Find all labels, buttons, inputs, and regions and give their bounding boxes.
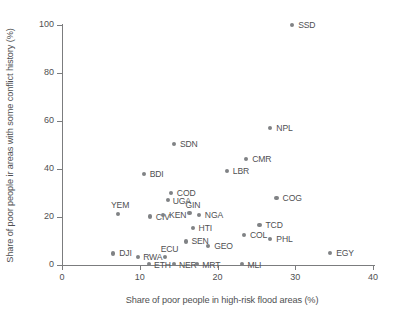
x-tick-mark — [295, 266, 296, 270]
data-point-label: ETH — [154, 261, 171, 270]
data-point-label: SDN — [180, 140, 198, 149]
data-point-label: MLI — [247, 261, 261, 270]
data-point-label: GEO — [214, 242, 233, 251]
data-point-label: COG — [283, 194, 302, 203]
data-point — [242, 233, 246, 237]
x-tick-label: 0 — [47, 272, 77, 282]
data-point-label: MRT — [202, 261, 220, 270]
data-point — [172, 142, 176, 146]
data-point — [206, 244, 210, 248]
y-tick-mark — [57, 121, 62, 122]
data-point-label: COL — [250, 231, 267, 240]
x-tick-label: 10 — [125, 272, 155, 282]
scatter-chart: Share of poor people ir areas with some … — [0, 0, 398, 320]
y-tick-label: 80 — [28, 67, 54, 77]
data-point — [268, 126, 272, 130]
data-point-label: DJI — [119, 249, 131, 258]
x-tick-label: 30 — [280, 272, 310, 282]
y-tick-label: 0 — [28, 259, 54, 269]
data-point — [136, 255, 140, 259]
data-point-label: EGY — [336, 249, 354, 258]
y-tick-label: 20 — [28, 211, 54, 221]
data-point — [148, 214, 152, 218]
data-point — [268, 237, 272, 241]
y-axis-line — [62, 24, 63, 266]
data-point — [166, 198, 170, 202]
data-point — [111, 251, 115, 255]
data-point-label: CMR — [252, 155, 271, 164]
data-point-label: BDI — [150, 170, 164, 179]
data-point — [290, 23, 294, 27]
data-point — [197, 213, 201, 217]
y-tick-label: 60 — [28, 115, 54, 125]
data-point — [116, 212, 120, 216]
data-point-label: ECU — [161, 245, 179, 254]
data-point-label: YEM — [111, 201, 129, 210]
data-point — [161, 213, 165, 217]
data-point-label: PHL — [276, 235, 292, 244]
data-point-label: TCD — [265, 221, 282, 230]
y-axis-title: Share of poor people ir areas with some … — [2, 8, 18, 283]
y-tick-mark — [57, 265, 62, 266]
data-point-label: NGA — [205, 211, 223, 220]
x-tick-label: 40 — [358, 272, 388, 282]
x-tick-mark — [62, 266, 63, 270]
data-point-label: LBR — [233, 167, 249, 176]
x-tick-mark — [373, 266, 374, 270]
data-point — [244, 157, 248, 161]
y-tick-mark — [57, 73, 62, 74]
data-point — [184, 239, 188, 243]
data-point — [163, 255, 167, 259]
data-point — [142, 172, 146, 176]
y-tick-mark — [57, 169, 62, 170]
data-point — [328, 251, 332, 255]
data-point — [257, 223, 261, 227]
x-tick-mark — [140, 266, 141, 270]
data-point — [187, 211, 191, 215]
data-point-label: NER — [179, 261, 197, 270]
data-point — [169, 191, 173, 195]
x-axis-title: Share of poor people in high-risk flood … — [62, 295, 382, 305]
y-tick-label: 100 — [28, 19, 54, 29]
data-point — [274, 196, 278, 200]
y-tick-mark — [57, 217, 62, 218]
data-point — [225, 169, 229, 173]
data-point-label: KEN — [169, 211, 186, 220]
data-point-label: HTI — [199, 224, 212, 233]
data-point-label: NPL — [276, 124, 292, 133]
y-tick-label: 40 — [28, 163, 54, 173]
data-point-label: GIN — [186, 201, 201, 210]
x-tick-label: 20 — [203, 272, 233, 282]
data-point-label: SSD — [298, 21, 315, 30]
data-point — [191, 226, 195, 230]
y-tick-mark — [57, 25, 62, 26]
